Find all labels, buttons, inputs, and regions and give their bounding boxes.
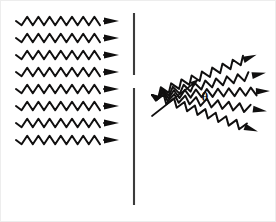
figure-canvas: θ <box>0 0 276 222</box>
diffraction-figure: θ <box>0 0 276 222</box>
theta-label: θ <box>202 89 209 104</box>
figure-background <box>0 0 276 222</box>
